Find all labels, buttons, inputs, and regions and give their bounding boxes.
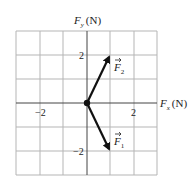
y-tick-2: 2 bbox=[79, 50, 84, 61]
x-tick-neg2: −2 bbox=[35, 107, 46, 118]
label-f2: F2 bbox=[113, 61, 125, 76]
y-axis-title: Fy(N) bbox=[73, 14, 101, 29]
label-f1: F1 bbox=[113, 135, 125, 150]
vector-f1 bbox=[87, 103, 109, 149]
origin-dot bbox=[84, 100, 90, 106]
y-tick-neg2: −2 bbox=[73, 146, 84, 157]
vector-f2 bbox=[87, 57, 109, 103]
force-vector-diagram: Fy(N) Fx(N) −2 2 2 −2 F2 F1 bbox=[0, 0, 196, 181]
x-tick-2: 2 bbox=[131, 107, 136, 118]
x-axis-title: Fx(N) bbox=[159, 97, 187, 112]
